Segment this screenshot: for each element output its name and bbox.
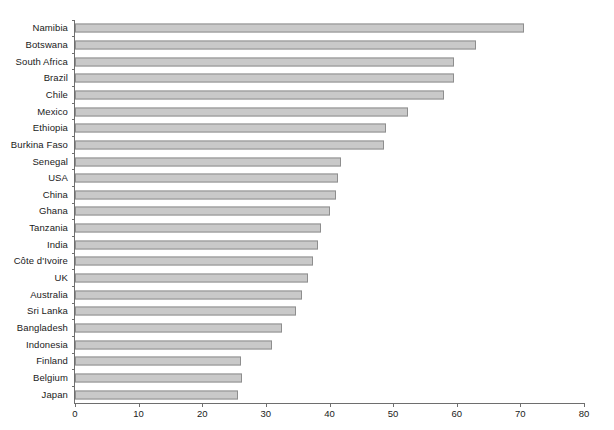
- y-axis-tick: [72, 103, 75, 104]
- bar: [75, 257, 313, 266]
- bar: [75, 24, 524, 33]
- category-label: Burkina Faso: [11, 140, 68, 150]
- bar-row: Burkina Faso: [75, 137, 584, 154]
- category-label: UK: [55, 273, 68, 283]
- category-label: Belgium: [33, 373, 68, 383]
- bar-row: India: [75, 236, 584, 253]
- category-label: Bangladesh: [17, 323, 68, 333]
- bar: [75, 340, 272, 349]
- y-axis-tick: [72, 236, 75, 237]
- bar: [75, 307, 296, 316]
- y-axis-tick: [72, 153, 75, 154]
- category-label: Ethiopia: [33, 123, 68, 133]
- bar: [75, 124, 386, 133]
- y-axis-tick: [72, 169, 75, 170]
- y-axis-tick: [72, 286, 75, 287]
- bar-row: Namibia: [75, 20, 584, 37]
- bar-row: Mexico: [75, 103, 584, 120]
- bar-row: Australia: [75, 286, 584, 303]
- bar-row: Côte d'Ivoire: [75, 253, 584, 270]
- x-axis-tick: [139, 403, 140, 407]
- x-axis-tick: [584, 403, 585, 407]
- category-label: Senegal: [32, 157, 68, 167]
- y-axis-tick: [72, 269, 75, 270]
- bar-row: Tanzania: [75, 220, 584, 237]
- category-label: China: [43, 190, 68, 200]
- x-axis-tick: [330, 403, 331, 407]
- y-axis-tick: [72, 319, 75, 320]
- x-axis-tick-label: 0: [72, 409, 77, 419]
- horizontal-bar-chart: NamibiaBotswanaSouth AfricaBrazilChileMe…: [0, 0, 614, 430]
- bar: [75, 40, 476, 49]
- x-axis-tick: [202, 403, 203, 407]
- y-axis-tick: [72, 136, 75, 137]
- category-label: India: [47, 240, 68, 250]
- bar-row: Belgium: [75, 370, 584, 387]
- y-axis-tick: [72, 36, 75, 37]
- category-label: Botswana: [25, 40, 68, 50]
- bar: [75, 390, 238, 399]
- bar-row: Indonesia: [75, 336, 584, 353]
- y-axis-tick: [72, 20, 75, 21]
- category-label: Ghana: [39, 207, 68, 217]
- plot-area: NamibiaBotswanaSouth AfricaBrazilChileMe…: [75, 20, 584, 403]
- x-axis-tick: [266, 403, 267, 407]
- y-axis-tick: [72, 386, 75, 387]
- bar: [75, 240, 318, 249]
- bar: [75, 224, 321, 233]
- bar-row: Japan: [75, 386, 584, 403]
- x-axis-tick: [457, 403, 458, 407]
- category-label: Chile: [46, 90, 68, 100]
- category-label: Tanzania: [29, 223, 68, 233]
- y-axis-tick: [72, 203, 75, 204]
- bar-row: Bangladesh: [75, 320, 584, 337]
- bar: [75, 324, 282, 333]
- bar: [75, 174, 338, 183]
- bar-row: Chile: [75, 87, 584, 104]
- bar: [75, 140, 384, 149]
- category-label: Japan: [42, 390, 68, 400]
- y-axis-tick: [72, 69, 75, 70]
- x-axis-tick-label: 50: [388, 409, 399, 419]
- x-axis-tick-label: 70: [515, 409, 526, 419]
- category-label: Australia: [30, 290, 68, 300]
- category-label: Côte d'Ivoire: [14, 257, 68, 267]
- bar: [75, 374, 242, 383]
- x-axis-tick: [520, 403, 521, 407]
- x-axis-tick: [75, 403, 76, 407]
- category-label: Indonesia: [26, 340, 68, 350]
- y-axis-tick: [72, 253, 75, 254]
- bar-row: Sri Lanka: [75, 303, 584, 320]
- category-label: USA: [48, 173, 68, 183]
- y-axis-tick: [72, 219, 75, 220]
- x-axis-tick-label: 40: [324, 409, 335, 419]
- x-axis-tick-label: 60: [451, 409, 462, 419]
- x-axis-tick: [393, 403, 394, 407]
- bar-row: Ghana: [75, 203, 584, 220]
- x-axis-tick-label: 10: [133, 409, 144, 419]
- y-axis-tick: [72, 369, 75, 370]
- x-axis-tick-label: 80: [579, 409, 590, 419]
- y-axis-tick: [72, 353, 75, 354]
- bar-row: South Africa: [75, 53, 584, 70]
- bar: [75, 357, 241, 366]
- bar: [75, 190, 336, 199]
- bar: [75, 274, 308, 283]
- y-axis-tick: [72, 336, 75, 337]
- bar: [75, 74, 454, 83]
- bar-row: Senegal: [75, 153, 584, 170]
- category-label: Finland: [36, 357, 68, 367]
- y-axis-tick: [72, 86, 75, 87]
- x-axis-tick-label: 20: [197, 409, 208, 419]
- y-axis-tick: [72, 303, 75, 304]
- y-axis-tick: [72, 119, 75, 120]
- x-axis-tick-label: 30: [261, 409, 272, 419]
- bar: [75, 90, 444, 99]
- y-axis-tick: [72, 53, 75, 54]
- category-label: Mexico: [37, 107, 68, 117]
- bar: [75, 57, 454, 66]
- bar-row: USA: [75, 170, 584, 187]
- y-axis-tick: [72, 186, 75, 187]
- category-label: Namibia: [32, 24, 68, 34]
- category-label: Sri Lanka: [27, 307, 68, 317]
